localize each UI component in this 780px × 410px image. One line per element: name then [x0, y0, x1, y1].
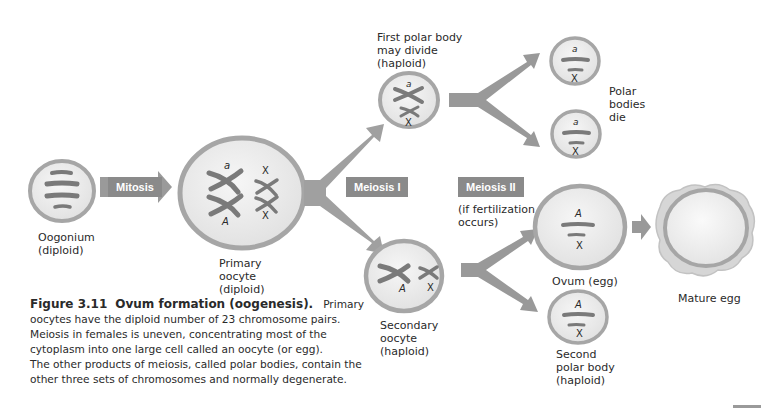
allele-label: A [222, 215, 229, 228]
meiosis-2-branch-arrow [461, 229, 538, 312]
allele-label: A [399, 282, 406, 295]
oogonium-label: Oogonium (diploid) [38, 231, 95, 257]
primary-oocyte-label: Primary oocyte (diploid) [219, 257, 264, 296]
polar-body-division-arrow [449, 53, 540, 147]
caption-text: Primary [323, 298, 364, 310]
allele-label: a [572, 43, 578, 56]
label-line: bodies [609, 98, 645, 111]
sex-chromosome-label: X [427, 281, 434, 294]
figure-number: Figure 3.11 [30, 297, 107, 311]
label-line: occurs) [458, 216, 535, 229]
allele-label: a [406, 78, 412, 91]
sex-chromosome-label: X [405, 116, 412, 129]
label-line: may divide [377, 44, 462, 57]
label-line: Mature egg [678, 292, 741, 305]
first-polar-body-label: First polar body may divide (haploid) [377, 31, 462, 70]
sex-chromosome-label: X [262, 209, 269, 222]
label-line: (if fertilization [458, 203, 535, 216]
primary-oocyte-cell [180, 138, 304, 248]
mitosis-tag: Mitosis [108, 177, 162, 197]
polar-bodies-die-label: Polar bodies die [609, 85, 645, 124]
allele-label: A [575, 207, 582, 220]
label-line: Polar [609, 85, 645, 98]
oogonium-cell [30, 161, 94, 221]
label-line: Ovum (egg) [552, 275, 618, 288]
sex-chromosome-label: X [572, 145, 579, 158]
label-line: oocyte [219, 270, 264, 283]
maturation-arrow [632, 214, 651, 240]
allele-label: A [575, 298, 582, 311]
ovum-label: Ovum (egg) [552, 275, 618, 288]
figure-title: Ovum formation (oogenesis). [115, 297, 313, 311]
sex-chromosome-label: X [262, 164, 269, 177]
figure-caption: Figure 3.11Ovum formation (oogenesis).Pr… [30, 297, 390, 387]
mature-egg-label: Mature egg [678, 292, 741, 305]
caption-text: The other products of meiosis, called po… [30, 358, 362, 370]
sex-chromosome-label: X [571, 72, 578, 85]
label-line: (diploid) [38, 244, 95, 257]
label-line: Primary [219, 257, 264, 270]
caption-text: cytoplasm into one large cell called an … [30, 343, 323, 355]
label-line: (haploid) [377, 57, 462, 70]
mature-egg-cell [656, 185, 754, 276]
fertilization-note: (if fertilization occurs) [458, 203, 535, 229]
allele-label: a [573, 116, 579, 129]
label-line: Second [556, 348, 615, 361]
sex-chromosome-label: X [576, 327, 583, 340]
label-line: First polar body [377, 31, 462, 44]
label-line: die [609, 111, 645, 124]
sex-chromosome-label: X [576, 239, 583, 252]
label-line: polar body [556, 361, 615, 374]
page-marker [733, 405, 761, 408]
caption-text: Meiosis in females is uneven, concentrat… [30, 328, 327, 340]
label-line: (haploid) [556, 374, 615, 387]
label-line: (diploid) [219, 283, 264, 296]
caption-text: oocytes have the diploid number of 23 ch… [30, 313, 340, 325]
meiosis-1-tag: Meiosis I [346, 177, 408, 197]
meiosis-2-tag: Meiosis II [458, 177, 524, 197]
allele-label: a [224, 159, 230, 172]
second-polar-body-label: Second polar body (haploid) [556, 348, 615, 387]
caption-text: other three sets of chromosomes and norm… [30, 373, 347, 385]
label-line: Oogonium [38, 231, 95, 244]
ovum-cell [535, 186, 625, 268]
